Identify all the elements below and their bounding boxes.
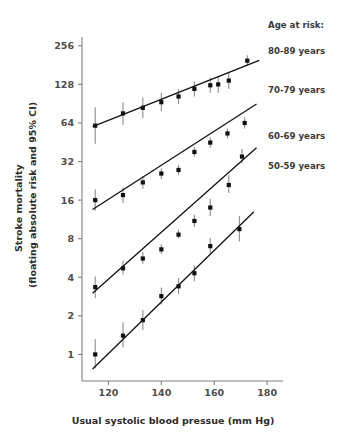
data-point-marker: [227, 183, 231, 187]
data-point-marker: [121, 111, 125, 115]
data-point-marker: [245, 59, 249, 63]
legend-title: Age at risk:: [268, 20, 324, 30]
data-point-marker: [237, 227, 241, 231]
y-axis-title-line1: Stroke mortality: [13, 163, 24, 252]
y-axis-title: Stroke mortality (floating absolute risk…: [13, 102, 38, 288]
data-point-marker: [208, 205, 212, 209]
data-point-marker: [93, 352, 97, 356]
data-point-marker: [176, 233, 180, 237]
data-point-marker: [121, 266, 125, 270]
data-series-layer: [93, 55, 260, 369]
data-point-marker: [208, 83, 212, 87]
data-point-marker: [159, 171, 163, 175]
data-point-marker: [159, 247, 163, 251]
y-tick-label: 16: [61, 195, 75, 206]
y-axis-title-line2: (floating absolute risk and 95% CI): [27, 102, 38, 288]
data-point-marker: [141, 256, 145, 260]
y-tick-label: 2: [67, 310, 74, 321]
data-point-marker: [243, 121, 247, 125]
stroke-mortality-scatter-plot: Stroke mortality (floating absolute risk…: [0, 0, 346, 436]
regression-line: [93, 148, 257, 294]
y-tick-label: 1: [67, 349, 74, 360]
data-point-marker: [192, 150, 196, 154]
x-axis-title: Usual systolic blood pressue (mm Hg): [72, 415, 275, 426]
series-80-89-years: [93, 55, 260, 144]
data-point-marker: [141, 180, 145, 184]
data-point-marker: [225, 131, 229, 135]
data-point-marker: [121, 193, 125, 197]
data-point-marker: [93, 124, 97, 128]
x-tick-label: 120: [99, 387, 119, 398]
data-point-marker: [159, 100, 163, 104]
y-tick-label: 4: [67, 272, 74, 283]
data-point-marker: [141, 318, 145, 322]
y-tick-label: 64: [61, 117, 75, 128]
y-axis-ticks: 1248163264128256: [54, 40, 82, 360]
legend-item-80-89: 80-89 years: [268, 46, 325, 56]
data-point-marker: [93, 198, 97, 202]
regression-line: [93, 212, 254, 369]
data-point-marker: [176, 94, 180, 98]
data-point-marker: [240, 154, 244, 158]
series-60-69-years: [93, 148, 257, 298]
data-point-marker: [216, 82, 220, 86]
legend: Age at risk: 80-89 years 70-79 years 60-…: [268, 20, 325, 171]
data-point-marker: [121, 334, 125, 338]
data-point-marker: [93, 285, 97, 289]
data-point-marker: [141, 106, 145, 110]
x-tick-label: 140: [151, 387, 171, 398]
y-tick-label: 8: [67, 233, 74, 244]
x-axis-ticks: 120140160180: [99, 381, 278, 398]
data-point-marker: [176, 284, 180, 288]
y-tick-label: 128: [54, 79, 74, 90]
x-tick-label: 160: [204, 387, 224, 398]
regression-line: [93, 60, 260, 126]
data-point-marker: [176, 168, 180, 172]
data-point-marker: [192, 219, 196, 223]
data-point-marker: [208, 244, 212, 248]
data-point-marker: [192, 271, 196, 275]
y-tick-label: 32: [61, 156, 74, 167]
legend-item-70-79: 70-79 years: [268, 85, 325, 95]
data-point-marker: [159, 294, 163, 298]
data-point-marker: [227, 79, 231, 83]
chart-figure: Stroke mortality (floating absolute risk…: [0, 0, 346, 436]
legend-item-60-69: 60-69 years: [268, 131, 325, 141]
legend-item-50-59: 50-59 years: [268, 161, 325, 171]
y-tick-label: 256: [54, 40, 74, 51]
x-tick-label: 180: [257, 387, 277, 398]
series-50-59-years: [93, 212, 254, 369]
data-point-marker: [208, 140, 212, 144]
series-70-79-years: [93, 104, 257, 211]
regression-line: [93, 104, 257, 210]
data-point-marker: [192, 87, 196, 91]
